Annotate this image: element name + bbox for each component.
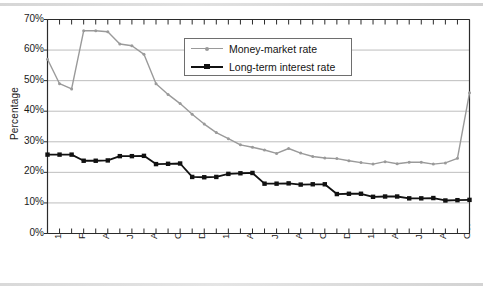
data-point xyxy=(215,131,218,134)
legend-item-long-term: Long-term interest rate xyxy=(185,57,351,76)
data-point xyxy=(57,152,61,156)
data-point xyxy=(299,152,302,155)
data-point xyxy=(202,175,206,179)
data-point xyxy=(431,196,435,200)
data-point xyxy=(408,161,411,164)
data-point xyxy=(299,182,303,186)
data-point xyxy=(94,159,98,163)
data-point xyxy=(70,87,73,90)
data-point xyxy=(130,44,133,47)
data-point xyxy=(45,152,49,156)
data-point xyxy=(275,152,278,155)
data-point xyxy=(179,102,182,105)
data-point xyxy=(383,194,387,198)
data-point xyxy=(118,154,122,158)
chart-legend: Money-market rate Long-term interest rat… xyxy=(184,38,352,76)
data-point xyxy=(444,161,447,164)
legend-swatch-money-market xyxy=(189,42,225,56)
data-point xyxy=(384,160,387,163)
data-point xyxy=(190,175,194,179)
data-point xyxy=(432,163,435,166)
data-point xyxy=(359,161,362,164)
data-point xyxy=(455,198,459,202)
data-point xyxy=(142,53,145,56)
data-point xyxy=(286,181,290,185)
data-point xyxy=(323,182,327,186)
data-point xyxy=(467,198,471,202)
data-point xyxy=(456,157,459,160)
data-point xyxy=(154,162,158,166)
data-point xyxy=(155,82,158,85)
data-point xyxy=(191,113,194,116)
data-point xyxy=(335,157,338,160)
data-point xyxy=(178,161,182,165)
data-point xyxy=(287,147,290,150)
legend-item-money-market: Money-market rate xyxy=(185,39,351,58)
data-point xyxy=(335,192,339,196)
data-point xyxy=(396,162,399,165)
legend-square-marker xyxy=(204,64,210,70)
data-point xyxy=(166,162,170,166)
data-point xyxy=(262,181,266,185)
legend-label-long-term: Long-term interest rate xyxy=(229,61,335,73)
legend-label-money-market: Money-market rate xyxy=(229,43,317,55)
data-point xyxy=(311,182,315,186)
data-point xyxy=(372,163,375,166)
data-point xyxy=(118,42,121,45)
data-point xyxy=(250,171,254,175)
data-point xyxy=(371,195,375,199)
data-point xyxy=(167,93,170,96)
legend-swatch-long-term xyxy=(189,60,225,74)
data-point xyxy=(142,154,146,158)
data-point xyxy=(81,159,85,163)
data-point xyxy=(420,161,423,164)
data-point xyxy=(274,181,278,185)
data-point xyxy=(227,137,230,140)
data-point xyxy=(106,30,109,33)
data-point xyxy=(82,29,85,32)
data-point xyxy=(203,123,206,126)
data-point xyxy=(238,171,242,175)
data-point xyxy=(395,194,399,198)
data-point xyxy=(130,154,134,158)
data-point xyxy=(347,159,350,162)
data-point xyxy=(94,29,97,32)
chart-container: Percentage 0%10%20%30%40%50%60%70% 1994 … xyxy=(0,0,483,296)
data-point xyxy=(468,91,471,94)
data-point xyxy=(443,198,447,202)
data-point xyxy=(407,196,411,200)
data-point xyxy=(239,143,242,146)
data-point xyxy=(311,155,314,158)
legend-dot-marker xyxy=(205,47,209,51)
data-point xyxy=(323,156,326,159)
data-point xyxy=(419,196,423,200)
data-point xyxy=(359,192,363,196)
data-point xyxy=(251,146,254,149)
data-point xyxy=(46,58,49,61)
data-point xyxy=(226,172,230,176)
data-point xyxy=(58,82,61,85)
data-point xyxy=(347,192,351,196)
data-point xyxy=(106,158,110,162)
data-point xyxy=(69,152,73,156)
data-point xyxy=(214,175,218,179)
data-point xyxy=(263,149,266,152)
